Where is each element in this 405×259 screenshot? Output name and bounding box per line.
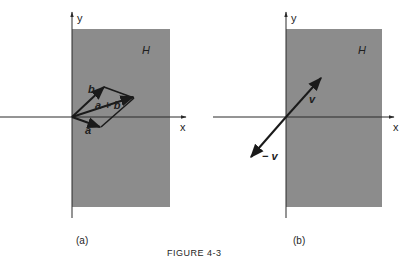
half-plane-region-b: [286, 29, 382, 207]
panel-label-a: (a): [76, 235, 88, 246]
vector-label-b: b: [88, 83, 95, 95]
figure-caption: FIGURE 4-3: [167, 248, 222, 258]
vector-label-a-plus-b: a + b: [95, 99, 121, 111]
x-axis-label-a: x: [180, 121, 186, 133]
region-label-a: H: [142, 44, 150, 56]
vector-label-neg-v: − v: [262, 150, 278, 162]
y-axis-label-a: y: [77, 12, 83, 24]
panel-label-b: (b): [293, 235, 305, 246]
figure-canvas: y x H b a + b a (a) y x H v − v (b) FIGU…: [0, 0, 405, 259]
y-axis-label-b: y: [291, 12, 297, 24]
half-plane-region-a: [72, 29, 170, 207]
panel-b: y x H v − v (b): [213, 12, 399, 246]
vector-label-v: v: [309, 93, 316, 105]
vector-label-a: a: [85, 124, 91, 136]
region-label-b: H: [358, 44, 366, 56]
panel-a: y x H b a + b a (a): [0, 12, 186, 246]
x-axis-label-b: x: [393, 121, 399, 133]
